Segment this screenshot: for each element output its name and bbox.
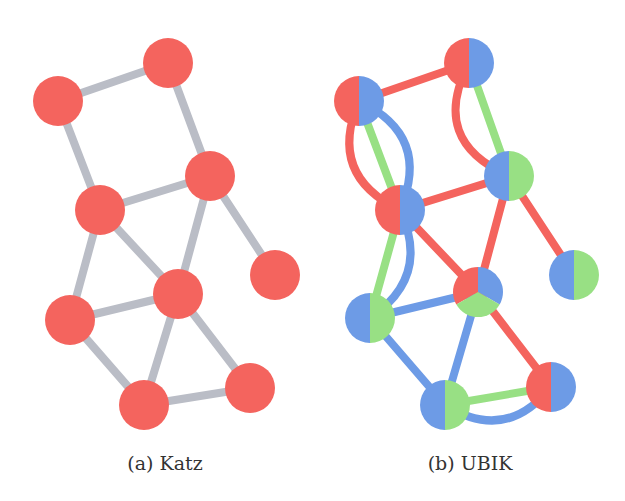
node-G: [45, 295, 95, 345]
node-A: [33, 76, 83, 126]
node-A: [334, 76, 384, 126]
node-D: [375, 185, 425, 235]
node-D: [75, 185, 125, 235]
nodes: [33, 38, 300, 430]
caption-ubik: (b) UBIK: [428, 452, 513, 474]
node-I: [526, 362, 576, 412]
node-C: [185, 151, 235, 201]
figure-canvas: [0, 0, 625, 501]
node-E: [250, 250, 300, 300]
nodes: [334, 38, 599, 430]
node-F: [153, 269, 203, 319]
node-G: [345, 293, 395, 343]
edges: [58, 63, 275, 405]
panel-b-graph: [334, 38, 599, 430]
caption-katz: (a) Katz: [127, 452, 202, 474]
node-I: [225, 363, 275, 413]
node-B: [143, 38, 193, 88]
node-H: [119, 380, 169, 430]
node-E: [549, 250, 599, 300]
node-B: [444, 38, 494, 88]
node-H: [420, 380, 470, 430]
node-C: [484, 151, 534, 201]
panel-a-graph: [33, 38, 300, 430]
node-F: [453, 267, 503, 317]
